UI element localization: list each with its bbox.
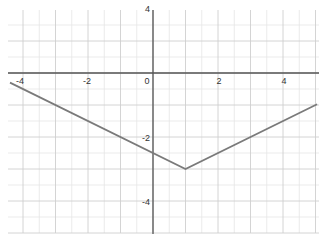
y-tick-label-4: 4 [145, 4, 150, 14]
x-tick-label-4: 4 [281, 76, 286, 86]
x-tick-label-neg4: -4 [16, 76, 24, 86]
y-tick-label-neg2: -2 [142, 133, 150, 143]
y-tick-label-neg4: -4 [142, 197, 150, 207]
x-tick-label-neg2: -2 [83, 76, 91, 86]
x-tick-label-2: 2 [216, 76, 221, 86]
absolute-value-line [10, 83, 317, 169]
minor-grid [8, 10, 319, 233]
major-grid [8, 10, 319, 233]
coordinate-plane: -4 -2 0 2 4 4 -2 -4 [0, 0, 319, 245]
x-tick-label-0: 0 [144, 76, 149, 86]
